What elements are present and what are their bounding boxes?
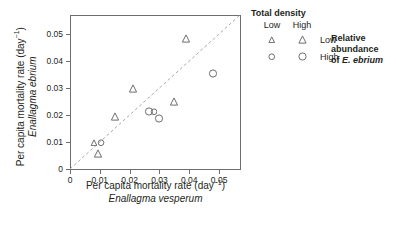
x-axis-label: Per capita mortality rate (day−1) Enalla… [70,176,241,205]
legend-rows: LowHigh [251,31,339,65]
y-axis-label-species: Enallagma ebrium [27,12,40,182]
x-axis-label-line1: Per capita mortality rate (day−1) [70,176,241,192]
legend-column-headers: LowHigh [257,20,339,30]
y-tick-mark [66,142,70,143]
y-tick-label: 0.02 [46,110,63,120]
legend-abundance-line1: Relative [331,33,395,44]
legend-marker-triangle-high [287,35,317,44]
legend-column-header: High [287,20,317,30]
legend-column-header: Low [257,20,287,30]
y-tick-mark [66,88,70,89]
data-point-triangle [128,79,137,97]
legend-abundance-line3: of E. ebrium [331,55,395,66]
x-tick-mark [130,170,131,174]
legend: Total density LowHigh LowHigh [251,8,339,65]
x-tick-mark [219,170,220,174]
figure-scatter-mortality-rate: 00.010.020.030.040.05 00.010.020.030.040… [0,0,396,225]
y-tick-mark [66,169,70,170]
y-tick-label: 0.01 [46,137,63,147]
y-tick-mark [66,115,70,116]
legend-abundance-line2: abundance [331,44,395,55]
y-tick-label: 0.05 [46,29,63,39]
y-tick-label: 0 [58,164,63,174]
data-point-triangle [110,107,119,125]
legend-title: Total density [251,8,339,18]
x-tick-mark [70,170,71,174]
y-tick-label: 0.03 [46,83,63,93]
x-tick-mark [100,170,101,174]
legend-abundance-caption: Relative abundance of E. ebrium [331,33,395,66]
legend-marker-circle-low [257,53,287,61]
data-point-triangle [170,92,179,110]
data-point-triangle [182,29,191,47]
data-point-circle [209,64,218,82]
legend-row: High [257,48,339,65]
y-tick-mark [66,61,70,62]
y-axis-label-line1: Per capita mortality rate (day−1) [10,12,26,182]
legend-marker-triangle-low [257,36,287,44]
y-axis-label: Per capita mortality rate (day−1) Enalla… [10,12,39,182]
y-tick-mark [66,34,70,35]
legend-marker-circle-high [287,52,317,61]
plot-area: 00.010.020.030.040.05 00.010.020.030.040… [70,15,241,170]
data-point-circle [155,109,164,127]
x-tick-mark [189,170,190,174]
y-tick-label: 0.04 [46,56,63,66]
data-point-circle [98,133,106,151]
x-axis-label-species: Enallagma vesperum [70,192,241,205]
legend-row: Low [257,31,339,48]
x-tick-mark [159,170,160,174]
